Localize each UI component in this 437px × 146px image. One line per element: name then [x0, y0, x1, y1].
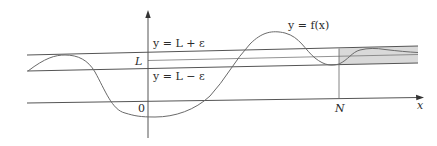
function-curve [28, 32, 418, 117]
upper-band-label: y = L + ε [152, 37, 205, 50]
lower-band-line [27, 63, 418, 71]
x-axis [27, 98, 418, 104]
y-axis-arrow-icon [145, 10, 150, 18]
epsilon-limit-diagram: y = L + ε y = L − ε L y = f(x) 0 N x [0, 0, 437, 146]
lower-band-label: y = L − ε [152, 70, 205, 83]
x-axis-label: x [417, 99, 424, 112]
limit-value-label: L [134, 55, 142, 68]
threshold-label: N [334, 102, 345, 115]
origin-label: 0 [138, 102, 145, 115]
curve-label: y = f(x) [287, 19, 329, 32]
